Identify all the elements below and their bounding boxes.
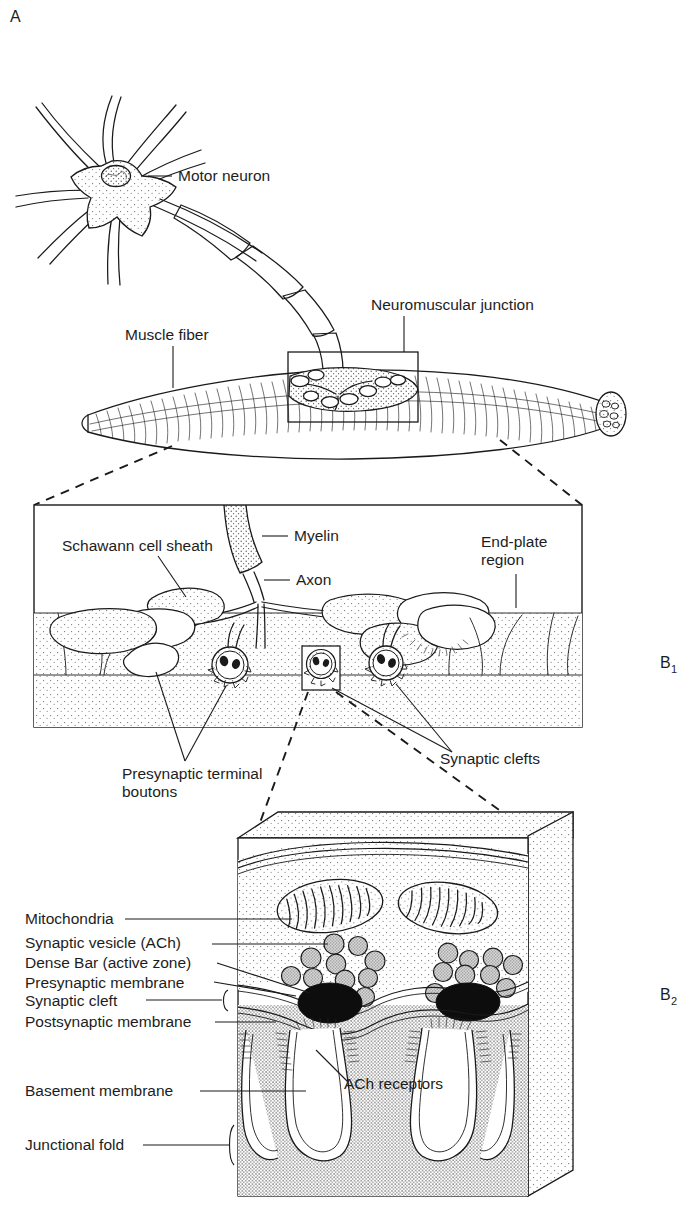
block-top-face: [238, 812, 573, 838]
panel-label-a: A: [10, 8, 21, 25]
neuromuscular-junction-figure: A: [0, 0, 699, 1207]
label-schwann-cell-sheath-text: Schawann cell sheath: [62, 537, 213, 554]
panel-label-b2-subscript: 2: [671, 995, 677, 1007]
label-myelin-text: Myelin: [294, 527, 339, 544]
dense-bar-left: [298, 983, 362, 1023]
muscle-fiber-drawing: [82, 368, 626, 459]
panel-label-b2-letter: B: [660, 986, 671, 1003]
label-muscle-fiber-text: Muscle fiber: [125, 326, 209, 343]
label-junctional-fold: Junctional fold: [25, 1125, 234, 1165]
label-junctional-fold-text: Junctional fold: [25, 1136, 124, 1153]
axon-myelinated: [154, 199, 343, 394]
label-motor-neuron-text: Motor neuron: [178, 167, 270, 184]
label-presynaptic-membrane-text: Presynaptic membrane: [25, 974, 184, 991]
fiber-cross-section: [596, 392, 626, 436]
label-synaptic-cleft: Synaptic cleft: [25, 990, 228, 1011]
label-muscle-fiber: Muscle fiber: [125, 326, 209, 388]
figure-canvas: A: [0, 0, 699, 1207]
label-end-plate-region-line2: region: [481, 551, 524, 568]
panel-label-b1-subscript: 1: [671, 663, 677, 675]
label-synaptic-clefts-text: Synaptic clefts: [440, 750, 540, 767]
label-end-plate-region-line1: End-plate: [481, 533, 547, 550]
label-neuromuscular-junction-text: Neuromuscular junction: [371, 296, 534, 313]
label-presynaptic-terminal-boutons-line1: Presynaptic terminal: [122, 765, 262, 782]
motor-neuron-drawing: [16, 96, 343, 394]
bouton-zoom-target: [302, 646, 340, 690]
panel-label-b2: B 2: [660, 986, 677, 1007]
label-dense-bar-active-zone-text: Dense Bar (active zone): [25, 954, 191, 971]
panel-b2-drawing: ACh receptors: [238, 812, 573, 1196]
panel-label-b1: B 1: [660, 654, 677, 675]
label-synaptic-cleft-text: Synaptic cleft: [25, 992, 118, 1009]
label-axon-text: Axon: [296, 571, 331, 588]
label-postsynaptic-membrane-text: Postsynaptic membrane: [25, 1013, 191, 1030]
panel-label-b1-letter: B: [660, 654, 671, 671]
label-presynaptic-terminal-boutons-line2: boutons: [122, 783, 177, 800]
label-mitochondria-text: Mitochondria: [25, 910, 114, 927]
block-right-face: [528, 812, 573, 1196]
label-basement-membrane-text: Basement membrane: [25, 1082, 173, 1099]
label-ach-receptors-text: ACh receptors: [344, 1075, 443, 1092]
label-neuromuscular-junction: Neuromuscular junction: [371, 296, 534, 352]
label-synaptic-vesicle-ach-text: Synaptic vesicle (ACh): [25, 934, 181, 951]
